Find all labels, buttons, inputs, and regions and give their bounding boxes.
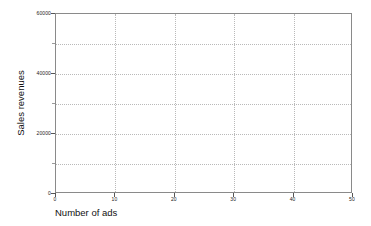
y-tick-mark — [51, 73, 55, 74]
gridline-horizontal — [56, 164, 351, 165]
gridline-vertical — [234, 14, 235, 192]
x-tick-label: 40 — [290, 196, 296, 202]
gridline-vertical — [294, 14, 295, 192]
x-axis-title: Number of ads — [55, 207, 117, 218]
gridline-vertical — [115, 14, 116, 192]
x-tick-label: 0 — [54, 196, 57, 202]
y-axis-title: Sales revenues — [14, 13, 28, 193]
chart-figure: 0200004000060000 01020304050 Sales reven… — [0, 0, 371, 226]
x-tick-label: 30 — [230, 196, 236, 202]
gridline-horizontal — [56, 104, 351, 105]
gridline-horizontal — [56, 74, 351, 75]
y-tick-mark — [51, 13, 55, 14]
y-tick-label: 40000 — [37, 70, 51, 76]
plot-area — [55, 13, 352, 193]
y-tick-mark — [52, 103, 55, 104]
gridline-horizontal — [56, 134, 351, 135]
x-tick-label: 10 — [112, 196, 118, 202]
y-tick-mark — [51, 133, 55, 134]
x-tick-label: 50 — [349, 196, 355, 202]
y-tick-label: 0 — [48, 190, 51, 196]
gridline-horizontal — [56, 44, 351, 45]
x-tick-label: 20 — [171, 196, 177, 202]
y-axis-tick-marks — [55, 13, 56, 193]
y-tick-label: 20000 — [37, 130, 51, 136]
y-tick-label: 60000 — [37, 10, 51, 16]
x-axis-tick-labels: 01020304050 — [55, 196, 352, 206]
gridline-vertical — [175, 14, 176, 192]
y-tick-mark — [52, 163, 55, 164]
y-tick-mark — [52, 43, 55, 44]
